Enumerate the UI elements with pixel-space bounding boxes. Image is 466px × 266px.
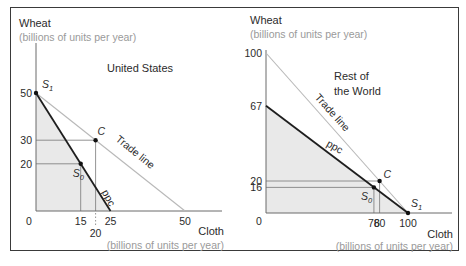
- row-x-axis-title: Cloth: [427, 228, 453, 240]
- row-panel-title-line1: Rest of: [334, 70, 370, 82]
- us-x-tick-25: 25: [105, 215, 117, 227]
- us-panel: Wheat (billions of units per year) Unite…: [19, 17, 224, 251]
- row-y-tick-16: 16: [250, 181, 262, 193]
- us-x-axis-title: Cloth: [198, 225, 224, 237]
- row-x-axis-subtitle: (billions of units per year): [336, 240, 453, 252]
- row-y-tick-100: 100: [244, 47, 262, 59]
- us-panel-title: United States: [107, 62, 174, 74]
- us-x-axis-subtitle: (billions of units per year): [107, 239, 224, 251]
- us-y-tick-20: 20: [20, 158, 32, 170]
- row-panel-title-line2: the World: [334, 85, 381, 97]
- us-y-tick-50: 50: [20, 87, 32, 99]
- row-point-label-s1: S1: [411, 197, 422, 212]
- row-origin-label: 0: [256, 215, 262, 227]
- row-point-c: [377, 179, 381, 183]
- us-y-axis-title: Wheat: [19, 17, 51, 29]
- us-point-label-c: C: [98, 125, 106, 137]
- us-y-tick-30: 30: [20, 134, 32, 146]
- us-point-c: [93, 138, 97, 142]
- row-y-axis-title: Wheat: [250, 14, 282, 26]
- us-x-tick-50: 50: [179, 215, 191, 227]
- row-x-tick-80: 80: [374, 217, 386, 229]
- chart-canvas: Wheat (billions of units per year) Unite…: [0, 0, 466, 266]
- row-panel: Wheat (billions of units per year) Rest …: [244, 14, 453, 252]
- us-point-label-s1: S1: [42, 78, 53, 93]
- row-y-tick-67: 67: [250, 100, 262, 112]
- row-point-s1: [406, 211, 410, 215]
- us-origin-label: 0: [26, 215, 32, 227]
- row-y-axis-subtitle: (billions of units per year): [250, 28, 367, 40]
- us-point-s0: [79, 162, 83, 166]
- us-trade-line-label: Trade line: [114, 132, 158, 171]
- row-point-s0: [372, 185, 376, 189]
- row-x-tick-100: 100: [399, 217, 417, 229]
- us-point-s1: [34, 91, 38, 95]
- us-x-tick-15: 15: [75, 215, 87, 227]
- us-y-axis-subtitle: (billions of units per year): [19, 31, 136, 43]
- us-x-tick-20: 20: [90, 227, 102, 239]
- row-point-label-c: C: [384, 168, 392, 180]
